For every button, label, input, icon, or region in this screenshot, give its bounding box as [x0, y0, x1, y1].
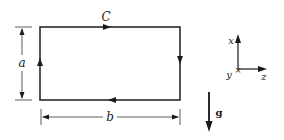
dimension-a: a [15, 27, 32, 100]
loop-label: C [101, 10, 110, 24]
x-axis-label: x [228, 35, 234, 46]
y-axis-label: y [225, 69, 232, 80]
arrow-down-icon [177, 56, 183, 64]
loop-rectangle [40, 27, 180, 100]
dimension-b-left-arrow-icon [42, 115, 49, 120]
loop-c: C [37, 10, 183, 103]
dimension-b-right-arrow-icon [172, 115, 179, 120]
arrow-left-icon [108, 97, 116, 103]
gravity-label: g [216, 107, 223, 118]
x-axis-arrow-icon [235, 34, 241, 43]
arrow-up-icon [37, 58, 43, 66]
y-axis-into-page-icon: × [235, 66, 242, 75]
gravity-vector: g [206, 92, 223, 132]
diagram-canvas: C a b x y × z g [0, 0, 284, 140]
dimension-b-label: b [106, 110, 114, 124]
dimension-b: b [41, 109, 180, 125]
z-axis-label: z [260, 71, 267, 82]
dimension-a-label: a [18, 56, 25, 70]
dimension-a-down-arrow-icon [20, 92, 25, 99]
coordinate-axes: x y × z [225, 34, 267, 82]
gravity-arrow-down-icon [206, 121, 213, 132]
arrow-right-icon [103, 24, 111, 30]
dimension-a-up-arrow-icon [20, 28, 25, 35]
